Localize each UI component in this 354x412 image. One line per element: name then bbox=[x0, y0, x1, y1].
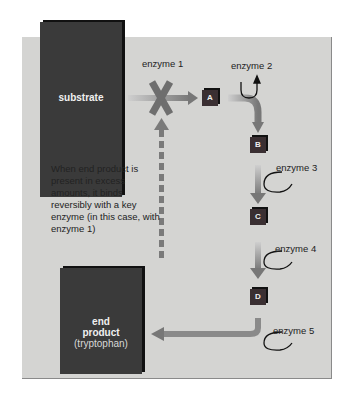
enzyme-3-curl-icon bbox=[264, 172, 292, 192]
end-product-box: end product (tryptophan) bbox=[60, 268, 142, 374]
end-product-line1: end bbox=[60, 316, 142, 327]
end-product-line3: (tryptophan) bbox=[60, 338, 142, 349]
enzyme-2-label: enzyme 2 bbox=[231, 60, 272, 71]
substrate-label: substrate bbox=[40, 92, 122, 103]
feedback-note: When end product is present in excess am… bbox=[51, 163, 161, 235]
enzyme-3-label: enzyme 3 bbox=[276, 162, 317, 173]
intermediate-c: C bbox=[250, 209, 266, 225]
enzyme-1-label: enzyme 1 bbox=[142, 58, 183, 69]
intermediate-d: D bbox=[250, 289, 266, 305]
intermediate-b: B bbox=[250, 137, 266, 153]
enzyme-5-label: enzyme 5 bbox=[273, 325, 314, 336]
enzyme-4-label: enzyme 4 bbox=[275, 243, 316, 254]
intermediate-a: A bbox=[202, 90, 218, 106]
end-product-line2: product bbox=[60, 327, 142, 338]
